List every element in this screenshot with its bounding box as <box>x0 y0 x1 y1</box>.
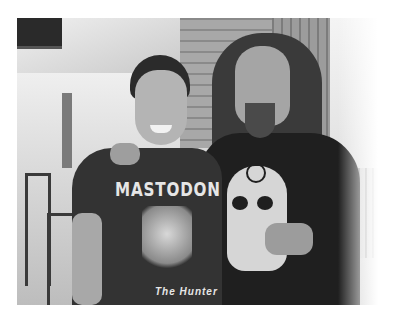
right-person-hand <box>265 223 313 255</box>
left-person-face <box>135 70 187 145</box>
vignette <box>338 18 378 305</box>
photo: MASTODON The Hunter <box>17 18 378 305</box>
skull-eye <box>232 196 248 210</box>
television <box>17 18 62 49</box>
arm-over-shoulder <box>110 143 140 165</box>
chair <box>47 213 75 305</box>
shirt-text-mastodon: MASTODON <box>115 178 221 200</box>
pillar <box>62 93 72 168</box>
right-person-beard <box>245 103 275 138</box>
crosshair-graphic <box>246 163 266 183</box>
owl-graphic <box>142 206 192 276</box>
left-person-arm <box>72 213 102 305</box>
shirt-text-hunter: The Hunter <box>155 286 218 297</box>
skull-eye <box>257 196 273 210</box>
